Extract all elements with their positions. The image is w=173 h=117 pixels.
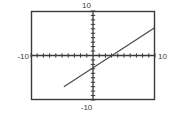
coordinate-plane-plot xyxy=(0,0,173,117)
graph-container: 10 -10 -10 10 xyxy=(0,0,173,117)
